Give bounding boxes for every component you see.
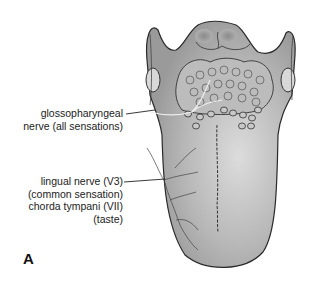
label-lingual-nerve: lingual nerve (V3) (common sensation) ch…	[28, 175, 123, 225]
label-line: (common sensation)	[28, 188, 123, 201]
tonsil-left	[146, 68, 160, 92]
panel-label: A	[23, 250, 34, 267]
leader-line-lingual	[124, 179, 165, 182]
label-line: glossopharyngeal	[23, 107, 123, 120]
epiglottic-pit-left	[195, 29, 213, 43]
tongue-illustration	[0, 0, 313, 286]
label-line: lingual nerve (V3)	[28, 175, 123, 188]
epiglottic-pit-right	[219, 29, 237, 43]
label-line: nerve (all sensations)	[23, 120, 123, 133]
label-glossopharyngeal: glossopharyngeal nerve (all sensations)	[23, 107, 123, 132]
label-line: chorda tympani (VII)	[28, 200, 123, 213]
lingual-tonsil-region	[176, 58, 273, 114]
tongue-innervation-figure: glossopharyngeal nerve (all sensations) …	[0, 0, 313, 286]
tonsil-right	[281, 68, 295, 92]
label-line: (taste)	[28, 213, 123, 226]
